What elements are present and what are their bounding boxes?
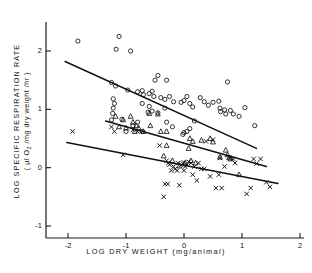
data-point-circles [111,106,115,110]
y-tick-label: 2 [30,46,42,55]
y-tick-label: 1 [30,104,42,113]
data-point-x-marks [177,183,181,187]
data-point-triangles [128,114,133,119]
data-point-circles [224,112,228,116]
data-point-triangles [190,139,195,144]
data-point-circles [140,101,144,105]
triangles-fit [106,121,267,167]
data-point-x-marks [157,143,161,147]
data-point-triangles [170,158,175,163]
data-point-x-marks [268,185,272,189]
data-point-circles [202,100,206,104]
data-point-x-marks [258,157,262,161]
axes-group [46,22,304,238]
data-point-circles [117,34,121,38]
x-tick-label: -2 [59,241,77,250]
scatter-plot-svg [0,0,312,273]
data-point-x-marks [251,157,255,161]
circles-fit [65,62,256,149]
data-point-circles [170,125,174,129]
data-point-x-marks [112,129,116,133]
y-axis-title-line1: LOG SPECIFIC RESPIRATION RATE [12,16,22,226]
data-point-triangles [113,114,118,119]
data-point-x-marks [162,195,166,199]
data-point-x-marks [175,168,179,172]
data-point-circles [153,78,157,82]
data-point-triangles [148,123,153,128]
data-point-triangles [161,153,166,158]
data-point-x-marks [222,164,226,168]
data-point-circles [76,39,80,43]
x-tick-label: 2 [291,241,309,250]
data-points-group [70,34,272,199]
data-point-circles [191,105,195,109]
data-point-triangles [186,146,191,151]
data-point-circles [217,99,221,103]
x-tick-label: 0 [175,241,193,250]
data-point-circles [185,94,189,98]
data-point-circles [156,73,160,77]
data-point-circles [243,105,247,109]
data-point-x-marks [244,192,248,196]
data-point-x-marks [211,137,215,141]
data-point-circles [167,94,171,98]
x-tick-label: 1 [233,241,251,250]
data-point-x-marks [208,174,212,178]
data-point-circles [159,96,163,100]
y-tick-label: 0 [30,163,42,172]
data-point-x-marks [249,186,253,190]
data-point-circles [136,90,140,94]
data-point-x-marks [214,186,218,190]
data-point-circles [225,80,229,84]
data-point-circles [165,78,169,82]
data-point-circles [147,104,151,108]
data-point-triangles [164,129,169,134]
data-point-circles [223,108,227,112]
data-point-x-marks [217,172,221,176]
x-axis-title: LOG DRY WEIGHT (mg/animal) [0,247,312,256]
data-point-circles [198,96,202,100]
data-point-x-marks [166,182,170,186]
data-point-circles [171,100,175,104]
data-point-x-marks [182,168,186,172]
data-point-x-marks [167,163,171,167]
data-point-triangles [199,138,204,143]
data-point-circles [253,124,257,128]
data-point-x-marks [169,168,173,172]
data-point-x-marks [109,125,113,129]
data-point-x-marks [220,186,224,190]
data-point-circles [140,89,144,93]
data-point-circles [112,101,116,105]
data-point-x-marks [70,129,74,133]
data-point-circles [206,103,210,107]
data-point-circles [163,97,167,101]
data-point-circles [147,91,151,95]
figure-panel: LOG SPECIFIC RESPIRATION RATE ( µl O2 /m… [0,0,312,273]
data-point-circles [114,47,118,51]
data-point-triangles [164,143,169,148]
data-point-x-marks [204,139,208,143]
data-point-circles [152,94,156,98]
data-point-circles [111,97,115,101]
figure-caption [14,266,304,272]
data-point-x-marks [191,172,195,176]
data-point-circles [141,93,145,97]
y-tick-label: -1 [30,221,42,230]
data-point-triangles [187,136,192,141]
x-tick-label: -1 [117,241,135,250]
data-point-circles [111,111,115,115]
data-point-triangles [158,129,163,134]
data-point-x-marks [233,161,237,165]
data-point-circles [237,114,241,118]
data-point-circles [211,100,215,104]
data-point-circles [231,112,235,116]
data-point-circles [129,49,133,53]
data-point-circles [165,120,169,124]
data-point-x-marks [195,178,199,182]
data-point-circles [150,89,154,93]
